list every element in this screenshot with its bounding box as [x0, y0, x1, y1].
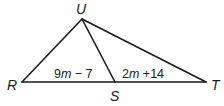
triangle-diagram: U R S T 9m − 7 2m +14: [0, 0, 224, 106]
vertex-label-t: T: [211, 77, 221, 93]
segment-label-st: 2m +14: [122, 67, 164, 81]
segment-label-rs: 9m − 7: [54, 67, 93, 81]
st-coefficient: 2: [122, 67, 129, 81]
rs-coefficient: 9: [54, 67, 61, 81]
st-variable: m: [129, 67, 139, 81]
vertex-label-u: U: [76, 1, 87, 17]
st-constant: +14: [139, 67, 164, 81]
rs-constant: − 7: [71, 67, 92, 81]
vertex-label-s: S: [110, 88, 120, 104]
vertex-label-r: R: [7, 77, 17, 93]
rs-variable: m: [61, 67, 71, 81]
